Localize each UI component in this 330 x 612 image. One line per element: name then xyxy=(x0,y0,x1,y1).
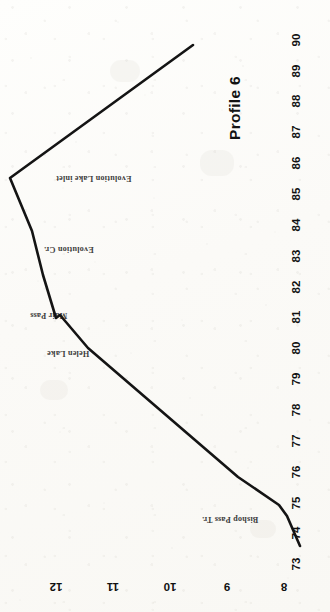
x-tick-83: 83 xyxy=(290,243,302,269)
annotation-evolution-lake-inlet: Evolution Lake inlet xyxy=(56,174,131,183)
x-tick-78: 78 xyxy=(290,397,302,423)
x-tick-76: 76 xyxy=(290,459,302,485)
y-tick-9: 9 xyxy=(215,581,239,593)
elevation-profile-plot xyxy=(0,0,330,612)
y-tick-10: 10 xyxy=(158,581,182,593)
x-tick-90: 90 xyxy=(290,27,302,53)
x-tick-73: 73 xyxy=(290,551,302,577)
x-tick-77: 77 xyxy=(290,428,302,454)
y-tick-12: 12 xyxy=(44,581,68,593)
x-tick-85: 85 xyxy=(290,181,302,207)
x-tick-79: 79 xyxy=(290,366,302,392)
x-tick-74: 74 xyxy=(290,520,302,546)
profile-polyline xyxy=(10,45,300,546)
annotation-evolution-cr: Evolution Cr. xyxy=(44,245,94,254)
annotation-bishop-pass-tr: Bishop Pass Tr. xyxy=(202,515,258,524)
x-tick-81: 81 xyxy=(290,304,302,330)
x-tick-89: 89 xyxy=(290,58,302,84)
y-tick-8: 8 xyxy=(272,581,296,593)
y-tick-11: 11 xyxy=(101,581,125,593)
x-tick-75: 75 xyxy=(290,490,302,516)
annotation-muir-pass: Muir Pass xyxy=(30,311,67,320)
x-tick-88: 88 xyxy=(290,88,302,114)
x-tick-84: 84 xyxy=(290,212,302,238)
x-tick-80: 80 xyxy=(290,335,302,361)
chart-title: Profile 6 xyxy=(226,76,244,140)
x-tick-86: 86 xyxy=(290,150,302,176)
x-tick-87: 87 xyxy=(290,119,302,145)
annotation-helen-lake: Helen Lake xyxy=(47,349,89,358)
x-tick-82: 82 xyxy=(290,274,302,300)
scanned-page: 73 74 75 76 77 78 79 80 81 82 83 84 85 8… xyxy=(0,0,330,612)
